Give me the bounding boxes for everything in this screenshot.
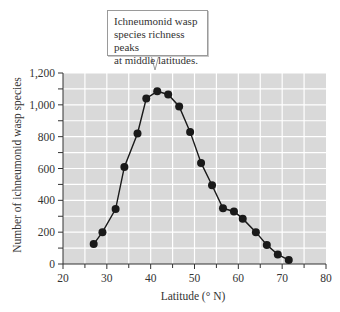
data-point [164,90,172,98]
data-point [142,94,150,102]
data-point [263,241,271,249]
data-point [285,256,293,264]
data-point [186,128,194,136]
x-axis-ticks: 20304050607080 [57,264,332,284]
callout-line-2: species richness peaks [114,28,201,54]
data-point [134,129,142,137]
data-point [239,215,247,223]
y-tick-label: 400 [38,194,56,206]
x-tick-label: 70 [276,272,288,284]
data-point [208,181,216,189]
y-tick-label: 800 [38,131,56,143]
data-point [219,204,227,212]
x-axis-label: Latitude (° N) [161,290,226,302]
data-point [230,207,238,215]
x-tick-label: 80 [320,272,332,284]
data-point [112,205,120,213]
x-tick-label: 40 [145,272,157,284]
data-point [274,250,282,258]
data-point [252,228,260,236]
callout-line-3: at middle latitudes. [114,54,201,67]
data-point [90,240,98,248]
annotation-callout: Ichneumonid wasp species richness peaks … [107,10,208,56]
y-tick-label: 200 [38,226,56,238]
data-point [153,87,161,95]
y-axis-ticks: 02004006008001,0001,200 [29,67,63,270]
y-axis-label: Number of ichneumonid wasp species [11,77,23,253]
callout-line-1: Ichneumonid wasp [114,15,201,28]
y-tick-label: 600 [38,163,56,175]
x-tick-label: 30 [101,272,113,284]
y-tick-label: 0 [49,258,55,270]
y-tick-label: 1,200 [29,67,55,80]
data-point [175,102,183,110]
data-point [120,163,128,171]
x-tick-label: 20 [57,272,69,284]
data-point [197,159,205,167]
x-tick-label: 50 [189,272,201,284]
data-point [98,228,106,236]
y-tick-label: 1,000 [29,99,55,112]
x-tick-label: 60 [233,272,245,284]
